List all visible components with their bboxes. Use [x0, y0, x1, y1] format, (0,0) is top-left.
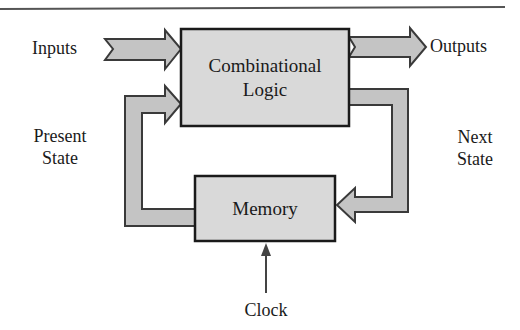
combinational-logic-line2: Logic: [243, 78, 287, 102]
outputs-arrow: [349, 28, 426, 66]
inputs-label: Inputs: [32, 37, 102, 59]
present-state-label: Present State: [20, 125, 100, 169]
next-state-line1: Next: [440, 126, 510, 148]
next-state-line2: State: [440, 148, 510, 170]
combinational-logic-label: Combinational Logic: [181, 29, 349, 126]
clock-arrowhead: [261, 243, 271, 256]
memory-label: Memory: [195, 176, 335, 241]
memory-label-text: Memory: [232, 197, 297, 221]
inputs-arrow: [105, 30, 181, 69]
top-rule: [0, 7, 505, 9]
present-state-line2: State: [20, 147, 100, 169]
clock-label: Clock: [226, 299, 306, 321]
combinational-logic-line1: Combinational: [209, 54, 322, 78]
outputs-label: Outputs: [430, 35, 520, 57]
present-state-line1: Present: [20, 125, 100, 147]
next-state-label: Next State: [440, 126, 510, 170]
